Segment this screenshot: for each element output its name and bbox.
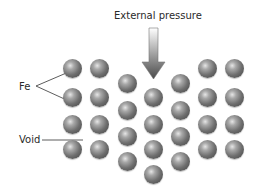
fe-atom-sphere [118,127,137,146]
fe-atom-sphere [225,59,244,78]
fe-atom-sphere [171,152,190,171]
pressure-arrow-icon [142,28,165,79]
void-label: Void [19,135,40,145]
fe-atom-sphere [198,140,217,159]
fe-atom-sphere [144,165,163,184]
fe-label: Fe [19,82,30,92]
fe-atom-sphere [118,101,137,120]
fe-atom-sphere [63,140,82,159]
fe-atom-sphere [171,74,190,93]
fe-atom-sphere [198,59,217,78]
fe-atom-sphere [144,88,163,107]
fe-atom-sphere [90,115,109,134]
fe-atom-sphere [63,115,82,134]
fe-atom-sphere [171,101,190,120]
fe-atom-sphere [198,88,217,107]
fe-atom-sphere [63,59,82,78]
fe-atom-sphere [90,59,109,78]
fe-atom-sphere [144,115,163,134]
fe-atom-sphere [171,127,190,146]
fe-atom-sphere [118,74,137,93]
fe-atom-sphere [90,140,109,159]
fe-atom-sphere [225,115,244,134]
fe-atom-sphere [225,140,244,159]
fe-atom-sphere [144,140,163,159]
fe-atom-sphere [118,152,137,171]
fe-atom-sphere [225,88,244,107]
diagram: External pressure Fe Void [0,0,261,196]
fe-atom-sphere [198,115,217,134]
fe-atom-sphere [90,88,109,107]
fe-atom-sphere [63,88,82,107]
